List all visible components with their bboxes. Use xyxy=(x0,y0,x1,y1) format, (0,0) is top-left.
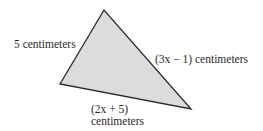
left-side-label: 5 centimeters xyxy=(14,38,76,50)
triangle-diagram xyxy=(0,0,263,131)
bottom-side-label-line1: (2x + 5) xyxy=(91,103,128,115)
right-side-label: (3x − 1) centimeters xyxy=(155,53,248,65)
bottom-side-label-line2: centimeters xyxy=(91,115,144,127)
